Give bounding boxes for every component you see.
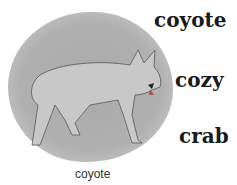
- coyote-illustration: [20, 45, 170, 160]
- word-cozy: cozy: [175, 70, 224, 90]
- image-caption: coyote: [75, 167, 110, 181]
- word-crab: crab: [179, 126, 229, 146]
- word-coyote: coyote: [154, 10, 226, 30]
